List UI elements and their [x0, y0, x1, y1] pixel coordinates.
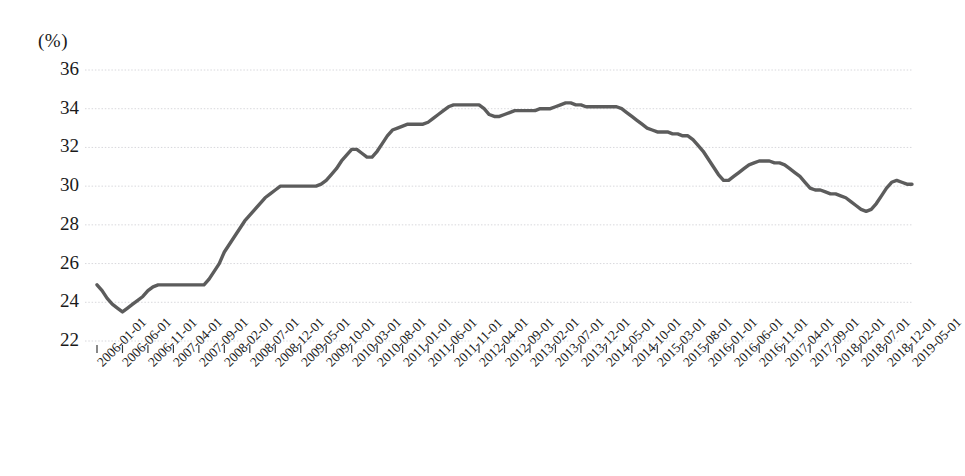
data-series-line [97, 103, 912, 312]
gridlines [85, 70, 912, 341]
